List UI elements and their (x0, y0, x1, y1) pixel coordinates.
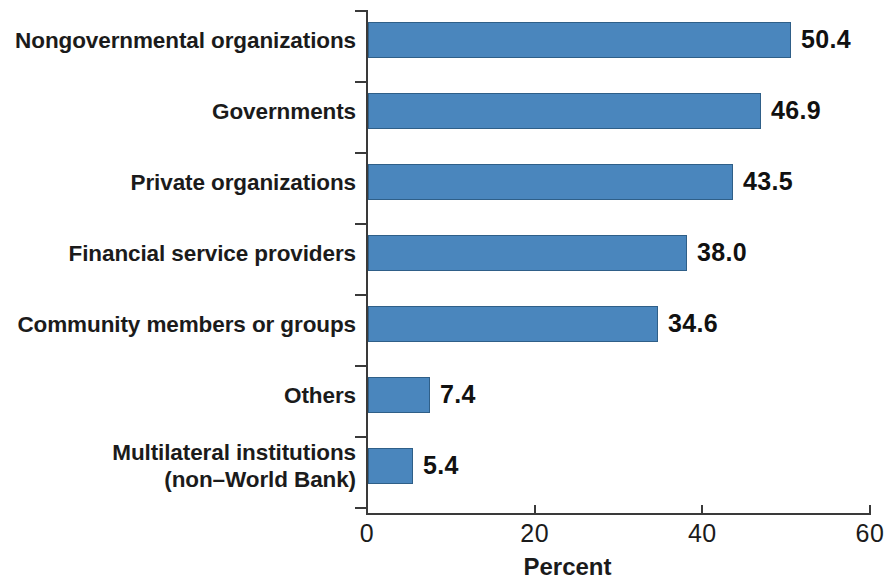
x-axis-tick (869, 505, 871, 515)
category-label: Nongovernmental organizations (15, 27, 356, 54)
bar (368, 377, 430, 413)
bar (368, 164, 733, 200)
bar-row: Nongovernmental organizations50.4 (0, 22, 887, 58)
x-axis-tick-label: 0 (360, 519, 374, 548)
bar-value-label: 34.6 (668, 309, 718, 338)
x-axis-tick (701, 505, 703, 515)
bar (368, 306, 658, 342)
category-label: Private organizations (131, 169, 356, 196)
bar (368, 22, 791, 58)
category-label: Governments (212, 98, 356, 125)
x-axis-title-label: Percent (523, 553, 611, 581)
x-axis-tick (534, 505, 536, 515)
x-axis-title: Percent (0, 553, 887, 581)
bar-value-label: 38.0 (697, 238, 747, 267)
y-axis-tick (355, 223, 366, 225)
bar-row: Governments46.9 (0, 93, 887, 129)
bar (368, 93, 761, 129)
category-label: Others (284, 382, 356, 409)
plot-area: Nongovernmental organizations50.4Governm… (0, 0, 887, 587)
bar-row: Others7.4 (0, 377, 887, 413)
y-axis-tick (355, 436, 366, 438)
x-axis-tick-label: 60 (856, 519, 885, 548)
bar-chart-figure: Nongovernmental organizations50.4Governm… (0, 0, 887, 587)
bar (368, 448, 413, 484)
category-label: Financial service providers (69, 240, 356, 267)
y-axis-tick (355, 507, 366, 509)
category-label: Multilateral institutions (non–World Ban… (112, 439, 356, 493)
x-axis-line (366, 513, 869, 515)
y-axis-tick (355, 152, 366, 154)
y-axis-tick (355, 10, 366, 12)
bar-value-label: 50.4 (801, 25, 851, 54)
bar-row: Community members or groups34.6 (0, 306, 887, 342)
bar-value-label: 7.4 (440, 380, 476, 409)
y-axis-tick (355, 294, 366, 296)
x-axis-tick (366, 505, 368, 515)
bar-value-label: 5.4 (423, 451, 459, 480)
bar (368, 235, 687, 271)
x-axis-tick-label: 20 (520, 519, 549, 548)
bar-row: Financial service providers38.0 (0, 235, 887, 271)
bar-value-label: 46.9 (771, 96, 821, 125)
y-axis-tick (355, 81, 366, 83)
x-axis-tick-label: 40 (688, 519, 717, 548)
bar-row: Multilateral institutions (non–World Ban… (0, 448, 887, 484)
category-label: Community members or groups (17, 311, 356, 338)
bar-value-label: 43.5 (743, 167, 793, 196)
bar-row: Private organizations43.5 (0, 164, 887, 200)
y-axis-tick (355, 365, 366, 367)
